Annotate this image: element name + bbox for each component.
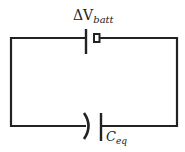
capacitor-symbol	[84, 113, 101, 141]
wire-top-left	[11, 38, 86, 126]
circuit-diagram: ΔVbatt Ceq	[0, 0, 185, 152]
wire-top-right	[100, 38, 177, 126]
wires	[11, 38, 177, 126]
capacitor-label: Ceq	[106, 129, 127, 146]
battery-symbol	[86, 29, 100, 54]
battery-short-terminal	[94, 34, 100, 42]
battery-label: ΔVbatt	[73, 7, 115, 25]
